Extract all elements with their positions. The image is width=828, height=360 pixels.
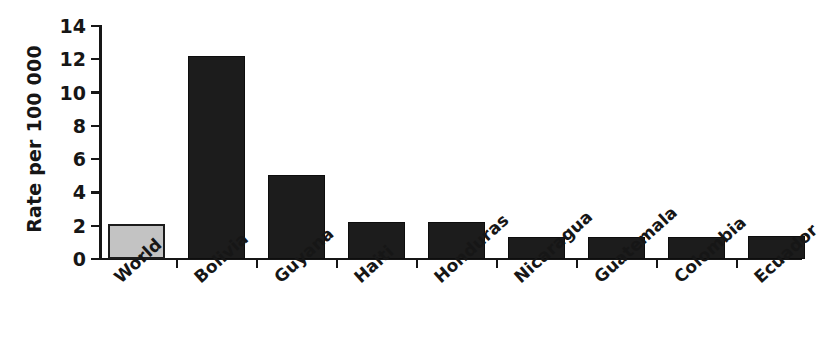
y-axis-tick bbox=[91, 58, 100, 60]
y-axis-tick-label: 0 bbox=[44, 248, 86, 270]
x-axis-tick bbox=[576, 259, 578, 268]
x-axis-tick bbox=[496, 259, 498, 268]
y-axis-tick bbox=[91, 258, 100, 260]
y-axis-tick bbox=[91, 191, 100, 193]
x-axis-tick bbox=[176, 259, 178, 268]
y-axis-tick-label: 12 bbox=[44, 48, 86, 70]
y-axis-tick bbox=[91, 25, 100, 27]
y-axis-tick bbox=[91, 91, 100, 93]
y-axis-tick bbox=[91, 225, 100, 227]
y-axis-tick-label: 2 bbox=[44, 215, 86, 237]
y-axis-tick-label: 4 bbox=[44, 181, 86, 203]
y-axis-tick-label: 10 bbox=[44, 82, 86, 104]
bar-chart: Rate per 100 000 14121086420 WorldBolivi… bbox=[0, 0, 828, 360]
x-axis-tick bbox=[656, 259, 658, 268]
x-axis-tick bbox=[416, 259, 418, 268]
y-axis-tick-label: 8 bbox=[44, 115, 86, 137]
y-axis-tick-label: 14 bbox=[44, 15, 86, 37]
y-axis-tick bbox=[91, 125, 100, 127]
x-axis-tick bbox=[256, 259, 258, 268]
y-axis-tick-label: 6 bbox=[44, 148, 86, 170]
x-axis-tick bbox=[336, 259, 338, 268]
y-axis-tick bbox=[91, 158, 100, 160]
x-axis-tick bbox=[736, 259, 738, 268]
plot-area: 14121086420 WorldBoliviaGuyanaHaitiHondu… bbox=[0, 0, 828, 360]
